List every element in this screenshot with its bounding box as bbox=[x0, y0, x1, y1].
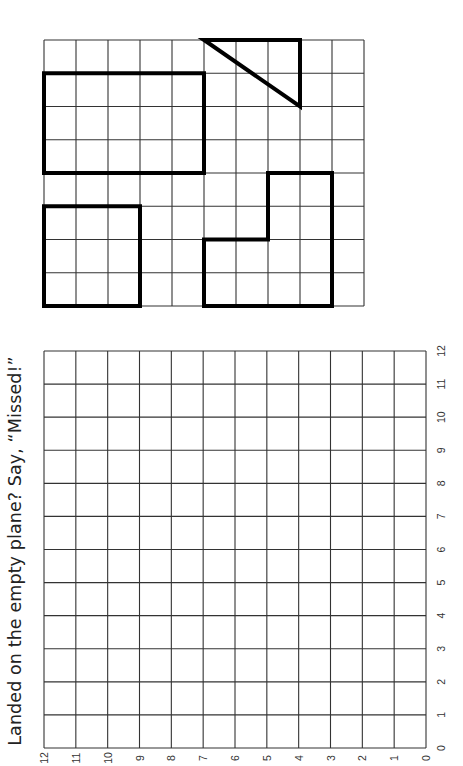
axis-tick-label: 4 bbox=[435, 613, 447, 619]
axis-tick-label: 0 bbox=[420, 755, 432, 761]
bottom-axis-labels: 1211109876543210 bbox=[38, 752, 432, 764]
axis-tick-label: 2 bbox=[435, 679, 447, 685]
right-axis-labels: 1211109876543210 bbox=[435, 345, 447, 751]
axis-tick-label: 0 bbox=[435, 745, 447, 751]
axis-tick-label: 11 bbox=[435, 378, 447, 389]
axis-tick-label: 5 bbox=[435, 580, 447, 586]
axis-tick-label: 9 bbox=[435, 447, 447, 453]
axis-tick-label: 7 bbox=[197, 755, 209, 761]
axis-tick-label: 12 bbox=[435, 345, 447, 357]
axis-tick-label: 10 bbox=[435, 411, 447, 423]
axis-tick-label: 3 bbox=[325, 755, 337, 761]
axis-tick-label: 4 bbox=[293, 755, 305, 761]
worksheet-canvas: 1211109876543210 1211109876543210 bbox=[0, 0, 463, 766]
axis-tick-label: 1 bbox=[435, 712, 447, 718]
axis-tick-label: 3 bbox=[435, 646, 447, 652]
axis-tick-label: 12 bbox=[38, 752, 50, 764]
axis-tick-label: 6 bbox=[229, 755, 241, 761]
axis-tick-label: 9 bbox=[134, 755, 146, 761]
small-square-shape bbox=[44, 206, 140, 306]
shapes-layer bbox=[44, 40, 332, 306]
axis-tick-label: 8 bbox=[165, 755, 177, 761]
axis-tick-label: 6 bbox=[435, 546, 447, 552]
axis-tick-label: 1 bbox=[388, 755, 400, 761]
empty-coordinate-plane[interactable] bbox=[44, 351, 426, 748]
axis-tick-label: 5 bbox=[261, 755, 273, 761]
axis-tick-label: 7 bbox=[435, 513, 447, 519]
axis-tick-label: 10 bbox=[102, 752, 114, 764]
axis-tick-label: 11 bbox=[70, 752, 82, 763]
axis-tick-label: 8 bbox=[435, 480, 447, 486]
large-rectangle-shape bbox=[44, 73, 204, 173]
axis-tick-label: 2 bbox=[356, 755, 368, 761]
